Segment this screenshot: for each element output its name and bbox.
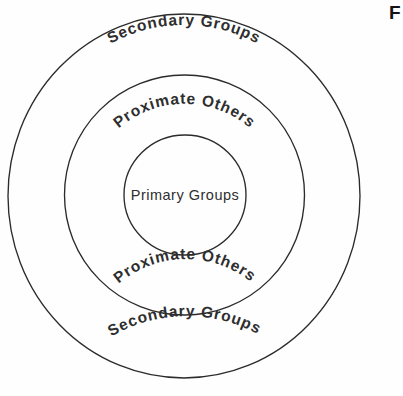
diagram-container: Secondary Groups Proximate Others Primar…: [0, 0, 403, 396]
label-secondary-groups-top: Secondary Groups: [104, 11, 264, 47]
label-secondary-groups-bottom: Secondary Groups: [105, 302, 265, 339]
figure-caption-marker: F: [389, 3, 403, 22]
label-proximate-others-bottom: Proximate Others: [110, 245, 260, 286]
label-primary-groups: Primary Groups: [131, 187, 240, 203]
label-proximate-others-top: Proximate Others: [110, 90, 259, 131]
concentric-rings-diagram: Secondary Groups Proximate Others Primar…: [0, 0, 403, 396]
